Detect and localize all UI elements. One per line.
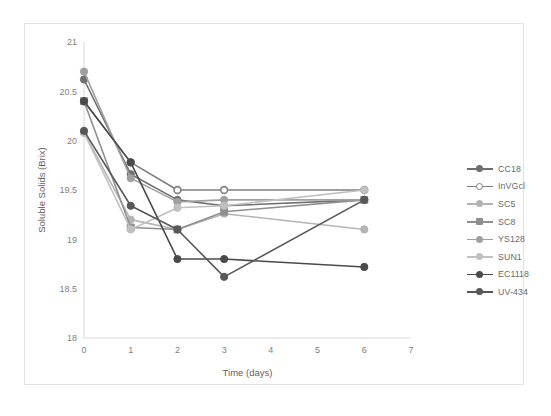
legend-item-label: InVGcl bbox=[493, 181, 525, 191]
series-line bbox=[84, 101, 364, 190]
series-line bbox=[84, 72, 364, 202]
legend-item-label: CC18 bbox=[493, 164, 521, 174]
legend-item-label: EC1118 bbox=[493, 269, 529, 279]
data-point-marker bbox=[174, 204, 181, 211]
y-axis-title: Soluble Solids (Brix) bbox=[36, 147, 47, 233]
data-point-marker bbox=[361, 226, 368, 233]
data-point-marker bbox=[127, 175, 134, 182]
data-point-marker bbox=[221, 255, 228, 262]
legend-marker-icon bbox=[467, 234, 493, 245]
series-layer bbox=[80, 68, 367, 280]
y-tick-label: 18 bbox=[67, 333, 77, 343]
legend-item-cc18[interactable]: CC18 bbox=[467, 160, 551, 178]
legend-item-sc8[interactable]: SC8 bbox=[467, 213, 551, 231]
series-ys128 bbox=[80, 68, 367, 205]
legend-item-sun1[interactable]: SUN1 bbox=[467, 248, 551, 266]
x-tick-label: 1 bbox=[128, 345, 133, 355]
series-line bbox=[84, 101, 364, 267]
legend-item-invgcl[interactable]: InVGcl bbox=[467, 178, 551, 196]
legend-item-uv-434[interactable]: UV-434 bbox=[467, 283, 551, 301]
y-tick-label: 21 bbox=[67, 37, 77, 47]
legend-item-ec1118[interactable]: EC1118 bbox=[467, 266, 551, 284]
data-point-marker bbox=[80, 68, 87, 75]
data-point-marker bbox=[361, 263, 368, 270]
legend-marker-icon bbox=[467, 163, 493, 174]
series-ec1118 bbox=[80, 98, 367, 271]
legend-marker-icon bbox=[467, 251, 493, 262]
data-point-marker bbox=[127, 159, 134, 166]
data-point-marker bbox=[221, 187, 228, 194]
legend-item-label: SUN1 bbox=[493, 252, 522, 262]
data-point-marker bbox=[361, 196, 368, 203]
series-sc8 bbox=[81, 98, 368, 233]
legend-item-sc5[interactable]: SC5 bbox=[467, 195, 551, 213]
series-invgcl bbox=[81, 98, 368, 194]
y-tick-label: 20 bbox=[67, 136, 77, 146]
data-point-marker bbox=[361, 186, 368, 193]
legend-item-label: SC8 bbox=[493, 217, 515, 227]
y-tick-label: 19.5 bbox=[59, 185, 77, 195]
y-tick-label: 20.5 bbox=[59, 87, 77, 97]
x-tick-label: 0 bbox=[81, 345, 86, 355]
legend-item-label: YS128 bbox=[493, 234, 525, 244]
x-tick-label: 5 bbox=[315, 345, 320, 355]
y-tick-label: 19 bbox=[67, 235, 77, 245]
data-point-marker bbox=[127, 202, 134, 209]
legend-marker-icon bbox=[467, 286, 493, 297]
data-point-marker bbox=[174, 226, 181, 233]
line-chart: 1818.51919.52020.52101234567Time (days)S… bbox=[25, 24, 523, 384]
chart-legend: CC18InVGclSC5SC8YS128SUN1EC1118UV-434 bbox=[467, 160, 551, 301]
data-point-marker bbox=[174, 187, 181, 194]
legend-marker-icon bbox=[467, 198, 493, 209]
legend-item-label: UV-434 bbox=[493, 287, 528, 297]
legend-marker-icon bbox=[467, 216, 493, 227]
data-point-marker bbox=[127, 226, 134, 233]
x-tick-label: 4 bbox=[268, 345, 273, 355]
legend-marker-icon bbox=[467, 181, 493, 192]
x-tick-label: 6 bbox=[362, 345, 367, 355]
data-point-marker bbox=[80, 98, 87, 105]
data-point-marker bbox=[80, 127, 87, 134]
legend-marker-icon bbox=[467, 269, 493, 280]
x-axis-title: Time (days) bbox=[223, 367, 273, 378]
x-tick-label: 2 bbox=[175, 345, 180, 355]
chart-figure: 1818.51919.52020.52101234567Time (days)S… bbox=[24, 23, 524, 385]
data-point-marker bbox=[221, 273, 228, 280]
series-sc5 bbox=[80, 129, 367, 233]
legend-item-label: SC5 bbox=[493, 199, 515, 209]
data-point-marker bbox=[174, 255, 181, 262]
x-tick-label: 3 bbox=[222, 345, 227, 355]
y-tick-label: 18.5 bbox=[59, 284, 77, 294]
x-tick-label: 7 bbox=[408, 345, 413, 355]
legend-item-ys128[interactable]: YS128 bbox=[467, 230, 551, 248]
data-point-marker bbox=[221, 202, 228, 209]
